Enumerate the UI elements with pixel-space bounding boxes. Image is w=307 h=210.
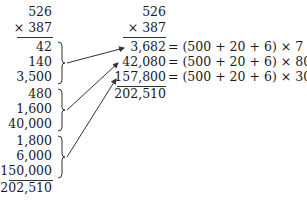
brace-group-2 — [58, 89, 65, 131]
arrow-1 — [67, 48, 124, 63]
braces-and-arrows — [0, 0, 307, 210]
brace-group-3 — [58, 136, 65, 178]
brace-group-1 — [58, 42, 65, 84]
arrow-2 — [67, 63, 118, 110]
arrow-3 — [67, 79, 116, 157]
